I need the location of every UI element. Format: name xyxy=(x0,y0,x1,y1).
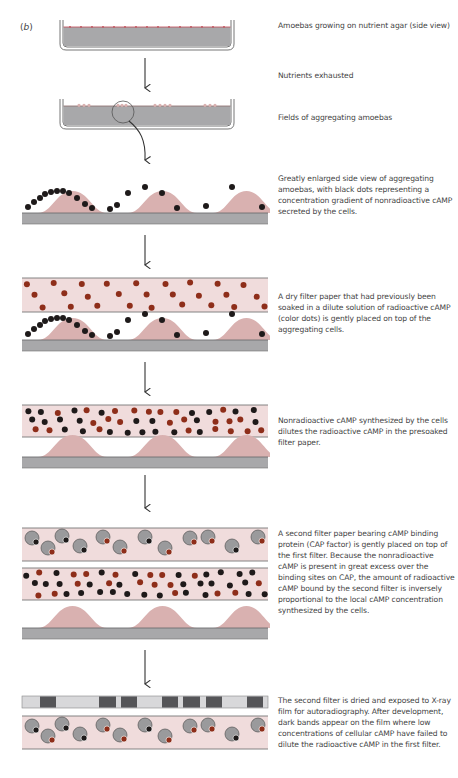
film-dark-band xyxy=(40,697,56,708)
nonradioactive-camp-dot xyxy=(237,571,243,577)
nonradioactive-camp-dot xyxy=(149,418,155,424)
nonradioactive-camp-bound xyxy=(233,547,239,553)
radioactive-camp-dot xyxy=(137,579,143,585)
nonradioactive-camp-dot xyxy=(31,326,37,332)
radioactive-camp-dot xyxy=(51,280,57,286)
nonradioactive-camp-dot xyxy=(227,583,233,589)
radioactive-camp-dot xyxy=(55,410,61,416)
radioactive-camp-dot xyxy=(227,418,233,424)
nonradioactive-camp-bound xyxy=(146,726,152,732)
step6-cell-mound xyxy=(213,606,270,628)
nonradioactive-camp-dot xyxy=(249,569,255,575)
amoeba-cluster xyxy=(120,104,123,107)
amoeba-cluster xyxy=(163,104,166,107)
nonradioactive-camp-dot xyxy=(29,417,35,423)
radioactive-camp-bound xyxy=(49,549,55,555)
nonradioactive-camp-dot xyxy=(43,581,49,587)
nonradioactive-camp-dot xyxy=(48,316,54,322)
nonradioactive-camp-dot xyxy=(209,581,215,587)
nonradioactive-camp-dot xyxy=(77,418,83,424)
nonradioactive-camp-dot xyxy=(66,317,72,323)
nonradioactive-camp-dot xyxy=(159,317,165,323)
nonradioactive-camp-dot xyxy=(259,331,265,337)
radioactive-camp-dot xyxy=(173,409,179,415)
nonradioactive-camp-dot xyxy=(183,590,189,596)
nonradioactive-camp-dot xyxy=(206,409,212,415)
radioactive-camp-dot xyxy=(256,580,262,586)
nonradioactive-camp-dot xyxy=(203,572,209,578)
radioactive-camp-dot xyxy=(85,294,91,300)
nonradioactive-camp-dot xyxy=(142,311,148,317)
radioactive-camp-dot xyxy=(192,573,198,579)
nonradioactive-camp-dot xyxy=(197,429,203,435)
nonradioactive-camp-dot xyxy=(251,407,257,413)
radioactive-camp-dot xyxy=(215,591,221,597)
nonradioactive-camp-dot xyxy=(176,572,182,578)
nonradioactive-camp-dot xyxy=(37,322,43,328)
radioactive-camp-dot xyxy=(146,409,152,415)
nonradioactive-camp-bound xyxy=(33,539,39,545)
nonradioactive-camp-dot xyxy=(259,204,265,210)
film-dark-band xyxy=(183,697,200,708)
zoom-arrow xyxy=(129,121,145,160)
nonradioactive-camp-dot xyxy=(180,581,186,587)
nonradioactive-camp-bound xyxy=(233,735,239,741)
radioactive-camp-dot xyxy=(179,302,185,308)
radioactive-camp-dot xyxy=(90,420,96,426)
enlarged-cell-mound xyxy=(38,191,107,213)
film-dark-band xyxy=(121,697,137,708)
nonradioactive-camp-dot xyxy=(60,315,66,321)
nonradioactive-camp-bound xyxy=(63,537,69,543)
nonradioactive-camp-dot xyxy=(25,331,31,337)
radioactive-camp-bound xyxy=(166,737,172,743)
step5-cell-mound xyxy=(38,435,107,457)
nonradioactive-camp-dot xyxy=(262,591,268,597)
radioactive-camp-dot xyxy=(117,419,123,425)
nonradioactive-camp-dot xyxy=(141,592,147,598)
step5-cell-mound xyxy=(128,435,197,457)
nonradioactive-camp-dot xyxy=(203,203,209,209)
amoeba-cluster xyxy=(213,104,216,107)
nonradioactive-camp-dot xyxy=(42,419,48,425)
nonradioactive-camp-dot xyxy=(157,593,163,599)
radioactive-camp-dot xyxy=(32,292,38,298)
radioactive-camp-dot xyxy=(35,592,41,598)
amoeba-cluster xyxy=(124,104,127,107)
nonradioactive-camp-dot xyxy=(125,430,131,436)
nonradioactive-camp-dot xyxy=(60,188,66,194)
radioactive-camp-dot xyxy=(79,281,85,287)
film-dark-band xyxy=(206,697,222,708)
radioactive-camp-dot xyxy=(215,281,221,287)
amoeba-cluster xyxy=(168,104,171,107)
step4-cell-mound xyxy=(38,318,107,340)
nonradioactive-camp-dot xyxy=(99,410,105,416)
radioactive-camp-dot xyxy=(106,580,112,586)
radioactive-camp-dot xyxy=(149,305,155,311)
caption-enlarged: Greatly enlarged side view of aggregatin… xyxy=(278,173,456,217)
radioactive-camp-dot xyxy=(40,305,46,311)
amoeba-cluster xyxy=(116,104,119,107)
nonradioactive-camp-dot xyxy=(159,190,165,196)
radioactive-camp-dot xyxy=(258,427,264,433)
nonradioactive-camp-dot xyxy=(114,202,120,208)
caption-agar-growth: Amoebas growing on nutrient agar (side v… xyxy=(278,20,456,31)
nonradioactive-camp-dot xyxy=(64,591,70,597)
radioactive-camp-dot xyxy=(245,428,251,434)
radioactive-camp-dot xyxy=(68,304,74,310)
radioactive-camp-dot xyxy=(159,572,165,578)
radioactive-camp-bound xyxy=(121,548,127,554)
radioactive-camp-bound xyxy=(191,727,197,733)
nonradioactive-camp-dot xyxy=(114,329,120,335)
nonradioactive-camp-dot xyxy=(25,408,31,414)
nonradioactive-camp-dot xyxy=(31,199,37,205)
caption-dry-filter: A dry filter paper that had previously b… xyxy=(278,291,456,335)
radioactive-camp-dot xyxy=(47,427,53,433)
amoeba xyxy=(135,26,137,28)
nonradioactive-camp-dot xyxy=(132,571,138,577)
radioactive-camp-dot xyxy=(163,281,169,287)
radioactive-camp-dot xyxy=(104,281,110,287)
nonradioactive-camp-dot xyxy=(74,195,80,201)
nonradioactive-camp-dot xyxy=(203,592,209,598)
nonradioactive-camp-dot xyxy=(142,184,148,190)
nonradioactive-camp-dot xyxy=(139,429,145,435)
